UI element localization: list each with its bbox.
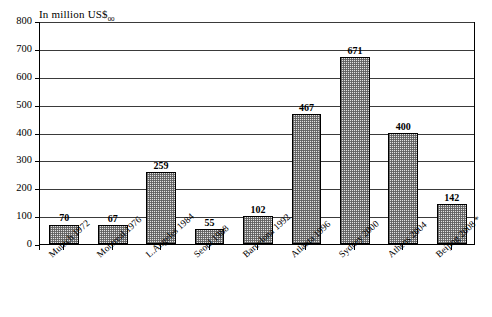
y-axis-tick-label: 800 — [2, 15, 32, 26]
bar-value-label: 102 — [243, 204, 273, 215]
y-axis-tick-label: 700 — [2, 43, 32, 54]
y-axis-tick-label: 600 — [2, 71, 32, 82]
axis-title-text: In million US$ — [39, 8, 108, 20]
bar-value-label: 142 — [437, 192, 467, 203]
bar-value-label: 467 — [292, 102, 322, 113]
chart-axis-title: In million US$00 — [39, 8, 114, 23]
y-axis-tick-label: 100 — [2, 210, 32, 221]
y-axis-tick-label: 300 — [2, 154, 32, 165]
y-axis-tick-label: 200 — [2, 182, 32, 193]
y-axis-tick-label: 0 — [2, 238, 32, 249]
gridline — [40, 106, 474, 107]
y-axis-tick-label: 500 — [2, 99, 32, 110]
bar-value-label: 259 — [146, 160, 176, 171]
y-axis-tick-label: 400 — [2, 127, 32, 138]
gridline — [40, 50, 474, 51]
bar-value-label: 400 — [388, 121, 418, 132]
gridline — [40, 78, 474, 79]
bar-chart: In million US$00 01002003004005006007008… — [0, 0, 492, 317]
gridline — [40, 22, 474, 23]
plot-area: 706725955102467671400142 — [39, 22, 475, 245]
bar-value-label: 70 — [49, 212, 79, 223]
x-axis-tick-mark — [39, 245, 40, 250]
bar-value-label: 67 — [98, 213, 128, 224]
bar — [340, 57, 370, 244]
bar — [292, 114, 322, 244]
bar-value-label: 671 — [340, 45, 370, 56]
